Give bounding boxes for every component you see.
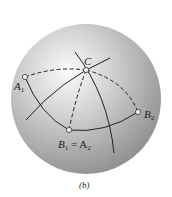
label-b1-equals-a2: B1 = A2	[58, 138, 91, 152]
sphere-diagram: A1 C B2 B1 = A2 (b)	[0, 0, 172, 197]
point-c	[83, 67, 88, 72]
point-b1-a2	[66, 127, 71, 132]
figure-caption: (b)	[79, 180, 90, 190]
point-b2	[135, 109, 140, 114]
point-a1	[22, 74, 27, 79]
label-c: C	[84, 55, 92, 67]
sphere	[11, 24, 161, 174]
